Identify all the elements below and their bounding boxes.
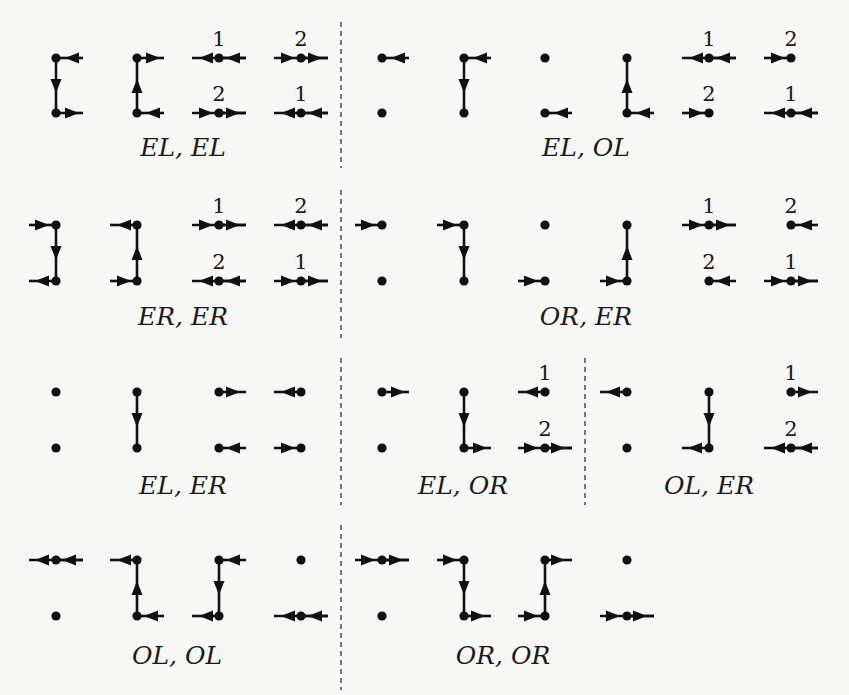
- node-dot: [377, 387, 386, 396]
- panel-caption: OR, OR: [456, 641, 551, 670]
- node-dot: [704, 108, 713, 117]
- node-dot: [377, 555, 386, 564]
- arrow-down-icon: [132, 413, 143, 427]
- node-dot: [786, 108, 795, 117]
- strand-index-label: 2: [212, 250, 225, 274]
- figure-canvas: 1221EL, EL1221EL, OL1221ER, ER1221OR, ER…: [0, 0, 849, 695]
- arrow-right-icon: [281, 443, 295, 454]
- arrow-left-icon: [199, 276, 213, 287]
- arrow-right-icon: [716, 220, 730, 231]
- arrow-left-icon: [308, 220, 322, 231]
- node-dot: [296, 611, 305, 620]
- node-dot: [459, 555, 468, 564]
- node-dot: [132, 387, 141, 396]
- node-dot: [786, 276, 795, 285]
- strand-index-label: 2: [702, 250, 715, 274]
- arrow-left-icon: [281, 611, 295, 622]
- node-dot: [540, 53, 549, 62]
- panel-or-er: 1221OR, ER: [355, 194, 818, 331]
- panel-caption: ER, ER: [137, 302, 228, 331]
- panel-er-er: 1221ER, ER: [29, 194, 328, 331]
- panel-caption: EL, EL: [139, 133, 226, 162]
- panels: 1221EL, EL1221EL, OL1221ER, ER1221OR, ER…: [29, 27, 818, 670]
- arrow-left-icon: [716, 276, 730, 287]
- node-dot: [704, 387, 713, 396]
- arrow-right-icon: [798, 387, 812, 398]
- arrow-right-icon: [361, 555, 375, 566]
- node-dot: [786, 443, 795, 452]
- node-dot: [704, 276, 713, 285]
- arrow-left-icon: [62, 555, 76, 566]
- arrow-left-icon: [554, 108, 568, 119]
- node-dot: [132, 555, 141, 564]
- node-dot: [786, 387, 795, 396]
- arrow-right-icon: [308, 276, 322, 287]
- arrow-up-icon: [132, 79, 143, 93]
- strand-index-label: 2: [212, 82, 225, 106]
- node-dot: [51, 443, 60, 452]
- arrow-right-icon: [771, 53, 785, 64]
- arrow-right-icon: [524, 443, 538, 454]
- arrow-right-icon: [551, 443, 565, 454]
- node-dot: [622, 53, 631, 62]
- arrow-right-icon: [281, 276, 295, 287]
- node-dot: [459, 276, 468, 285]
- arrow-left-icon: [308, 108, 322, 119]
- node-dot: [704, 220, 713, 229]
- arrow-left-icon: [226, 276, 240, 287]
- panel-caption: OL, OL: [132, 641, 222, 670]
- arrow-up-icon: [540, 581, 551, 595]
- strand-index-label: 1: [212, 194, 225, 218]
- arrow-right-icon: [606, 611, 620, 622]
- panel-el-ol: 1221EL, OL: [377, 27, 818, 162]
- arrow-left-icon: [689, 53, 703, 64]
- arrow-left-icon: [798, 220, 812, 231]
- node-dot: [622, 387, 631, 396]
- arrow-right-icon: [308, 53, 322, 64]
- node-dot: [622, 611, 631, 620]
- strand-index-label: 2: [294, 27, 307, 51]
- node-dot: [540, 611, 549, 620]
- node-dot: [459, 220, 468, 229]
- node-dot: [377, 220, 386, 229]
- arrow-down-icon: [51, 246, 62, 260]
- arrow-left-icon: [35, 276, 49, 287]
- arrow-left-icon: [226, 443, 240, 454]
- arrow-left-icon: [771, 108, 785, 119]
- panel-caption: EL, OR: [417, 471, 508, 500]
- strand-index-label: 1: [702, 194, 715, 218]
- node-dot: [622, 276, 631, 285]
- arrow-up-icon: [132, 581, 143, 595]
- arrow-left-icon: [226, 555, 240, 566]
- node-dot: [132, 611, 141, 620]
- arrow-right-icon: [226, 220, 240, 231]
- node-dot: [214, 276, 223, 285]
- arrow-left-icon: [144, 611, 158, 622]
- node-dot: [51, 611, 60, 620]
- arrow-left-icon: [606, 387, 620, 398]
- strand-index-label: 1: [702, 27, 715, 51]
- arrow-left-icon: [281, 108, 295, 119]
- panel-ol-er: 12OL, ER: [600, 361, 818, 500]
- panel-caption: OL, ER: [664, 471, 754, 500]
- node-dot: [377, 443, 386, 452]
- node-dot: [622, 220, 631, 229]
- node-dot: [214, 443, 223, 452]
- arrow-right-icon: [199, 108, 213, 119]
- node-dot: [51, 220, 60, 229]
- arrow-right-icon: [226, 108, 240, 119]
- arrow-right-icon: [689, 220, 703, 231]
- arrow-right-icon: [524, 276, 538, 287]
- arrow-right-icon: [443, 555, 457, 566]
- node-dot: [459, 108, 468, 117]
- panel-ol-ol: OL, OL: [29, 555, 328, 671]
- arrow-left-icon: [473, 53, 487, 64]
- arrow-left-icon: [636, 108, 650, 119]
- strand-index-label: 2: [784, 417, 797, 441]
- arrow-right-icon: [389, 555, 403, 566]
- panel-el-er: EL, ER: [51, 387, 305, 501]
- node-dot: [622, 555, 631, 564]
- node-dot: [214, 108, 223, 117]
- node-dot: [786, 53, 795, 62]
- node-dot: [540, 108, 549, 117]
